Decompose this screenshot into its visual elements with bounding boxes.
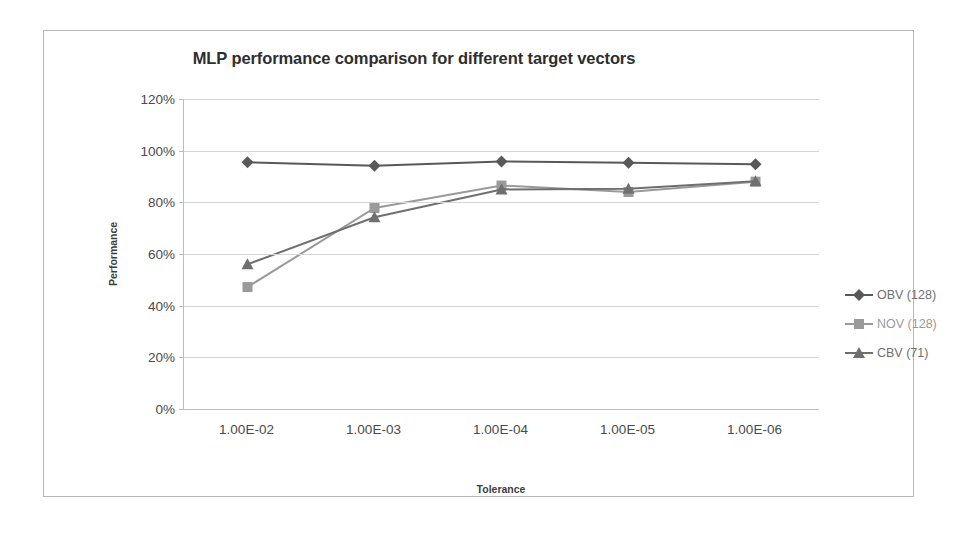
legend-marker-icon bbox=[844, 317, 874, 331]
y-axis-tick-label: 60% bbox=[148, 247, 175, 262]
x-axis-tick-label: 1.00E-02 bbox=[219, 422, 274, 437]
chart-legend: OBV (128)NOV (128)CBV (71) bbox=[844, 280, 955, 367]
y-tick-mark bbox=[179, 409, 184, 410]
legend-marker-icon bbox=[844, 346, 874, 360]
y-axis-tick-label: 80% bbox=[148, 195, 175, 210]
data-point-marker bbox=[750, 158, 762, 170]
chart-frame: MLP performance comparison for different… bbox=[43, 30, 914, 497]
y-tick-mark bbox=[179, 202, 184, 203]
data-point-marker bbox=[853, 289, 865, 301]
x-axis-tick-label: 1.00E-04 bbox=[473, 422, 528, 437]
y-axis-title: Performance bbox=[107, 222, 119, 286]
plot-area: 0%20%40%60%80%100%120% bbox=[183, 99, 819, 409]
data-point-marker bbox=[854, 319, 864, 329]
x-axis-title: Tolerance bbox=[183, 483, 819, 495]
legend-label: CBV (71) bbox=[877, 346, 928, 360]
y-tick-mark bbox=[179, 254, 184, 255]
data-point-marker bbox=[496, 156, 508, 168]
y-axis-tick-label: 0% bbox=[155, 402, 175, 417]
data-point-marker bbox=[369, 160, 381, 172]
legend-item[interactable]: CBV (71) bbox=[844, 338, 955, 367]
y-axis-tick-label: 100% bbox=[140, 143, 175, 158]
y-gridline bbox=[184, 306, 819, 307]
y-tick-mark bbox=[179, 357, 184, 358]
y-axis-tick-label: 40% bbox=[148, 298, 175, 313]
y-axis-tick-label: 20% bbox=[148, 350, 175, 365]
legend-label: OBV (128) bbox=[877, 288, 936, 302]
y-tick-mark bbox=[179, 99, 184, 100]
y-gridline bbox=[184, 99, 819, 100]
y-gridline bbox=[184, 357, 819, 358]
x-axis-tick-label: 1.00E-03 bbox=[346, 422, 401, 437]
legend-item[interactable]: NOV (128) bbox=[844, 309, 955, 338]
y-axis-tick-label: 120% bbox=[140, 92, 175, 107]
chart-title: MLP performance comparison for different… bbox=[44, 49, 784, 68]
y-gridline bbox=[184, 202, 819, 203]
x-axis-tick-label: 1.00E-05 bbox=[600, 422, 655, 437]
x-axis-tick-label: 1.00E-06 bbox=[727, 422, 782, 437]
y-tick-mark bbox=[179, 306, 184, 307]
series-line bbox=[248, 182, 756, 287]
data-point-marker bbox=[243, 282, 253, 292]
data-point-marker bbox=[242, 156, 254, 168]
legend-marker-icon bbox=[844, 288, 874, 302]
legend-item[interactable]: OBV (128) bbox=[844, 280, 955, 309]
y-tick-mark bbox=[179, 151, 184, 152]
y-gridline bbox=[184, 254, 819, 255]
data-point-marker bbox=[623, 157, 635, 169]
y-gridline bbox=[184, 151, 819, 152]
y-gridline bbox=[184, 409, 819, 410]
legend-label: NOV (128) bbox=[877, 317, 937, 331]
